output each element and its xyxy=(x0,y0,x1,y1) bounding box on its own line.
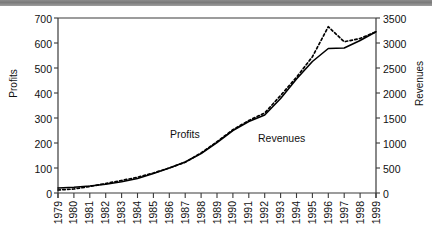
svg-text:1999: 1999 xyxy=(370,201,382,225)
svg-text:1987: 1987 xyxy=(179,201,191,225)
svg-text:1992: 1992 xyxy=(258,201,270,225)
svg-text:1979: 1979 xyxy=(52,201,64,225)
svg-text:1990: 1990 xyxy=(227,201,239,225)
plot-svg: 1979198019811982198319841985198619871988… xyxy=(0,0,432,242)
svg-text:1991: 1991 xyxy=(242,201,254,225)
svg-text:1986: 1986 xyxy=(163,201,175,225)
svg-text:1988: 1988 xyxy=(195,201,207,225)
x-axis-tick-labels: 1979198019811982198319841985198619871988… xyxy=(52,201,382,225)
svg-text:1985: 1985 xyxy=(147,201,159,225)
svg-text:1995: 1995 xyxy=(306,201,318,225)
series-line-revenues xyxy=(58,32,376,188)
svg-text:1981: 1981 xyxy=(83,201,95,225)
dual-axis-line-chart: Profits Revenues 700 600 500 400 300 200… xyxy=(0,0,432,242)
x-axis-ticks xyxy=(58,193,376,198)
svg-text:1993: 1993 xyxy=(274,201,286,225)
svg-text:1997: 1997 xyxy=(338,201,350,225)
svg-text:1996: 1996 xyxy=(322,201,334,225)
svg-text:1982: 1982 xyxy=(99,201,111,225)
svg-text:1998: 1998 xyxy=(354,201,366,225)
svg-text:1994: 1994 xyxy=(290,201,302,225)
svg-text:1984: 1984 xyxy=(131,201,143,225)
svg-text:1989: 1989 xyxy=(211,201,223,225)
svg-text:1983: 1983 xyxy=(115,201,127,225)
svg-text:1980: 1980 xyxy=(68,201,80,225)
series-line-profits xyxy=(58,27,376,190)
